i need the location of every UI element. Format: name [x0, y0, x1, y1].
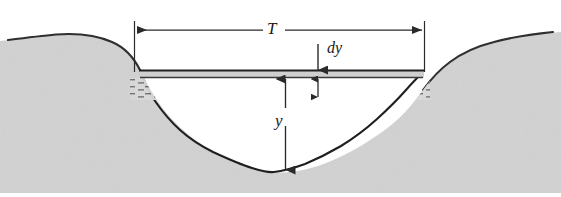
water-surface-band-fill: [139, 71, 424, 78]
terrain-group: [0, 0, 561, 193]
channel-cross-section-figure: T dy y: [0, 0, 561, 197]
figure-canvas: [0, 0, 561, 197]
